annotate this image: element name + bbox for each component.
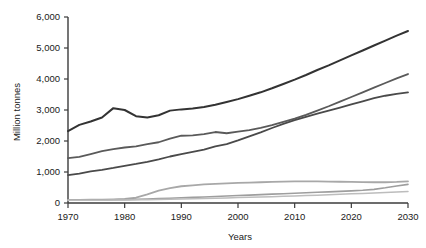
x-tick-label: 1990	[171, 211, 192, 222]
x-tick-label: 2000	[227, 211, 248, 222]
y-tick-label: 6,000	[36, 11, 60, 22]
data-series-group	[68, 31, 408, 200]
x-tick-label: 2010	[284, 211, 305, 222]
y-tick-label: 4,000	[36, 73, 60, 84]
x-tick-label: 1980	[114, 211, 135, 222]
y-tick-label: 2,000	[36, 135, 60, 146]
y-tick-label: 5,000	[36, 42, 60, 53]
x-tick-label: 1970	[57, 211, 78, 222]
x-tick-label: 2020	[341, 211, 362, 222]
series-line-series-3	[68, 92, 408, 175]
series-line-series-2	[68, 74, 408, 158]
chart-canvas: 01,0002,0003,0004,0005,0006,000 19701980…	[0, 0, 426, 248]
series-line-series-1	[68, 31, 408, 131]
x-tick-label: 2030	[397, 211, 418, 222]
y-tick-label: 1,000	[36, 166, 60, 177]
y-axis-tick-labels: 01,0002,0003,0004,0005,0006,000	[36, 11, 60, 208]
x-axis-tick-labels: 1970198019902000201020202030	[57, 211, 418, 222]
y-axis-title: Million tonnes	[11, 83, 22, 141]
axis-tick-marks	[64, 17, 408, 208]
x-axis-title: Years	[228, 231, 252, 242]
line-chart: 01,0002,0003,0004,0005,0006,000 19701980…	[0, 0, 426, 248]
y-tick-label: 3,000	[36, 104, 60, 115]
y-tick-label: 0	[55, 197, 60, 208]
